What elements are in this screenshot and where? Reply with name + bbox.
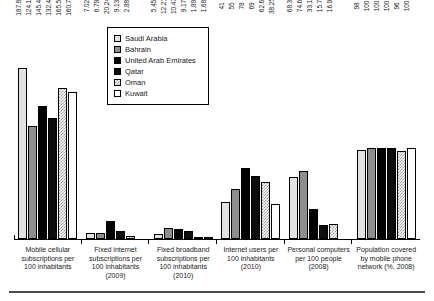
bar-value-label: 2.88 (122, 0, 131, 12)
legend-item-oman[interactable]: Oman (114, 77, 201, 88)
bar-oman[interactable]: 62.6 (261, 8, 270, 239)
bar-saudi-arabia[interactable]: 187.86 (18, 8, 27, 239)
x-axis-label: Population covered by mobile phone netwo… (352, 246, 420, 280)
legend-item-bahrain[interactable]: Bahrain (114, 44, 201, 55)
bar-value-label: 9.17 (179, 0, 188, 12)
bar-groups: 187.86124.18145.45132.43165.54160.787.02… (14, 8, 420, 239)
bar-rect (106, 221, 115, 239)
legend-item-saudi-arabia[interactable]: Saudi Arabia (114, 33, 201, 44)
legend-swatch-icon (114, 57, 121, 64)
bar-bahrain[interactable]: 124.18 (28, 8, 37, 239)
bar-value-label: 6.79 (92, 0, 101, 12)
bar-rect (174, 229, 183, 239)
bar-value-label: 74.6 (295, 0, 304, 12)
legend-label: Bahrain (125, 45, 151, 54)
bar-rect (271, 204, 280, 239)
bar-bahrain[interactable]: 6.79 (96, 8, 105, 239)
bar-saudi-arabia[interactable]: 41 (221, 8, 230, 239)
bar-united-arab-emirates[interactable]: 100 (377, 8, 386, 239)
bar-rect (261, 182, 270, 239)
bar-oman[interactable]: 16.9 (329, 8, 338, 239)
legend-item-united-arab-emirates[interactable]: United Arab Emirates (114, 55, 201, 66)
bar-value-label: 187.86 (14, 0, 23, 16)
bar-value-label: 62.6 (257, 0, 266, 12)
bar-value-label: 100 (382, 1, 391, 12)
bar-rect (231, 189, 240, 239)
bar-value-label: 9.13 (112, 0, 121, 12)
legend-item-kuwait[interactable]: Kuwait (114, 88, 201, 99)
bar-rect (68, 92, 77, 239)
bar-kuwait[interactable]: 100 (407, 8, 416, 239)
bar-value-label: 98 (352, 2, 361, 9)
bar-group: 187.86124.18145.45132.43165.54160.78 (14, 8, 82, 239)
bar-qatar[interactable]: 69 (251, 8, 260, 239)
x-axis-label: Fixed internet subscriptions per 100 inh… (82, 246, 150, 280)
legend-label: United Arab Emirates (125, 56, 196, 65)
bar-value-label: 16.9 (325, 0, 334, 12)
bar-saudi-arabia[interactable]: 7.02 (86, 8, 95, 239)
bar-kuwait[interactable] (339, 8, 348, 239)
bar-qatar[interactable]: 15.7 (319, 8, 328, 239)
bar-rect (357, 150, 366, 239)
bar-united-arab-emirates[interactable]: 33.1 (309, 8, 318, 239)
bar-value-label: 124.18 (24, 0, 33, 16)
bar-united-arab-emirates[interactable]: 145.45 (38, 8, 47, 239)
legend-swatch-icon (114, 35, 121, 42)
bar-united-arab-emirates[interactable]: 78 (241, 8, 250, 239)
bar-qatar[interactable]: 132.43 (48, 8, 57, 239)
bar-rect (58, 88, 67, 239)
bar-rect (329, 224, 338, 239)
bar-value-label: 145.45 (34, 0, 43, 16)
bar-rect (116, 231, 125, 239)
bar-value-label: 165.54 (54, 0, 63, 16)
bar-value-label: 160.78 (64, 0, 73, 16)
legend-label: Kuwait (125, 89, 148, 98)
bar-rect (397, 151, 406, 239)
bar-value-label: 15.7 (315, 0, 324, 12)
bar-group: 4155786962.638.25 (217, 8, 285, 239)
legend-label: Saudi Arabia (125, 34, 168, 43)
bar-kuwait[interactable]: 38.25 (271, 8, 280, 239)
x-axis-label: Personal computers per 100 people (2008) (285, 246, 353, 280)
legend-swatch-icon (114, 90, 121, 97)
bar-rect (251, 176, 260, 239)
bar-value-label: 1.68 (199, 0, 208, 12)
bar-value-label: 10.47 (169, 0, 178, 14)
legend-item-qatar[interactable]: Qatar (114, 66, 201, 77)
bar-qatar[interactable]: 100 (387, 8, 396, 239)
x-axis-label: Fixed broadband subscriptions per 100 in… (149, 246, 217, 280)
bar-rect (309, 209, 318, 239)
bar-saudi-arabia[interactable]: 98 (357, 8, 366, 239)
bar-value-label: 12.21 (159, 0, 168, 14)
bar-saudi-arabia[interactable]: 68.3 (289, 8, 298, 239)
bar-value-label: 1.89 (189, 0, 198, 12)
bar-bahrain[interactable]: 100 (367, 8, 376, 239)
bar-rect (289, 177, 298, 239)
bar-rect (184, 231, 193, 239)
bar-oman[interactable]: 165.54 (58, 8, 67, 239)
bar-group: 68.374.633.115.716.9 (285, 8, 353, 239)
bar-bahrain[interactable]: 74.6 (299, 8, 308, 239)
bar-value-label: 100 (402, 1, 411, 12)
bar-bahrain[interactable]: 55 (231, 8, 240, 239)
axis-tick-origin (14, 235, 15, 240)
bar-rect (387, 148, 396, 239)
bar-value-label: 20.24 (102, 0, 111, 14)
legend-swatch-icon (114, 46, 121, 53)
plot-area: 187.86124.18145.45132.43165.54160.787.02… (14, 8, 420, 240)
bar-oman[interactable]: 96 (397, 8, 406, 239)
bar-value-label: 7.02 (82, 0, 91, 12)
bar-value-label: 96 (392, 2, 401, 9)
bar-rect (319, 225, 328, 239)
x-axis-labels: Mobile cellular subscriptions per 100 in… (14, 246, 420, 280)
bar-kuwait[interactable]: 160.78 (68, 8, 77, 239)
chart-legend: Saudi ArabiaBahrainUnited Arab EmiratesQ… (107, 27, 209, 105)
legend-label: Qatar (125, 67, 144, 76)
bar-rect (367, 148, 376, 239)
bar-rect (241, 168, 250, 239)
bar-value-label: 100 (362, 1, 371, 12)
bar-rect (164, 228, 173, 239)
bar-value-label: 38.25 (267, 0, 276, 14)
bar-rect (299, 171, 308, 239)
x-axis-label: Mobile cellular subscriptions per 100 in… (14, 246, 82, 280)
